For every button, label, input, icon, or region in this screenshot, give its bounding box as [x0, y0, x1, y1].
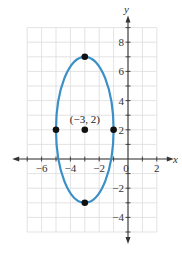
- x-axis-label: x: [172, 153, 178, 165]
- y-axis-label: y: [123, 3, 129, 15]
- y-tick-label: 6: [119, 65, 125, 77]
- x-tick-label: −6: [36, 162, 48, 174]
- center-label: (−3, 2): [70, 113, 100, 126]
- y-axis-arrow-up: [126, 16, 131, 23]
- data-point: [53, 127, 60, 134]
- data-point: [110, 127, 117, 134]
- ellipse-chart: −6−4−202−4−22468 (−3, 2) x y: [0, 0, 182, 257]
- x-tick-label: −2: [93, 162, 105, 174]
- y-tick-label: −2: [112, 182, 124, 194]
- annotations: (−3, 2): [70, 113, 100, 126]
- y-tick-label: 8: [119, 36, 125, 48]
- data-point: [82, 54, 89, 61]
- data-point: [82, 200, 89, 207]
- data-point: [82, 127, 89, 134]
- y-tick-label: 2: [119, 124, 125, 136]
- y-tick-label: 4: [119, 95, 125, 107]
- x-tick-label: 2: [154, 162, 160, 174]
- y-axis-arrow-down: [126, 237, 131, 244]
- x-tick-label: 0: [123, 162, 129, 174]
- x-tick-label: −4: [65, 162, 77, 174]
- y-tick-label: −4: [112, 211, 124, 223]
- x-axis-arrow-left: [12, 157, 19, 162]
